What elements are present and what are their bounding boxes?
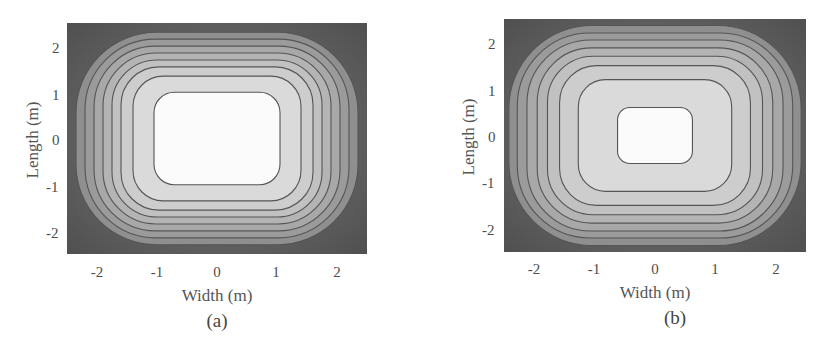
y-tick-label: 1	[488, 84, 496, 99]
x-tick-label: 0	[213, 265, 221, 280]
contour-line	[154, 92, 280, 184]
y-tick-label: -2	[46, 226, 59, 241]
y-tick-label: -1	[46, 180, 59, 195]
x-tick-label: 2	[772, 262, 780, 277]
y-tick-label: 0	[488, 130, 496, 145]
contour-plot-a	[67, 23, 367, 254]
x-tick-label: -1	[588, 262, 601, 277]
x-tick-label: 1	[711, 262, 719, 277]
y-tick-label: -1	[482, 176, 495, 191]
x-tick-label: 0	[651, 262, 659, 277]
contour-plot-b	[504, 19, 806, 252]
y-axis-label: Length (m)	[23, 102, 43, 179]
y-tick-label: 1	[52, 88, 60, 103]
x-tick-label: -1	[151, 265, 164, 280]
x-tick-label: -2	[528, 262, 541, 277]
panel-caption: (b)	[664, 307, 686, 329]
x-axis-label: Width (m)	[620, 283, 691, 303]
contour-line	[618, 108, 693, 164]
x-tick-label: 2	[333, 265, 341, 280]
y-tick-label: 2	[488, 37, 496, 52]
x-tick-label: -2	[91, 265, 104, 280]
panel-a: 2 1 0 -1 -2 -2 -1 0 1 2 Length (m) Width…	[0, 0, 413, 359]
y-tick-label: 0	[52, 133, 60, 148]
x-tick-label: 1	[272, 265, 280, 280]
y-tick-label: 2	[52, 41, 60, 56]
x-axis-label: Width (m)	[182, 286, 253, 306]
panel-caption: (a)	[206, 310, 227, 332]
panel-b: 2 1 0 -1 -2 -2 -1 0 1 2 Length (m) Width…	[413, 0, 826, 359]
y-tick-label: -2	[482, 223, 495, 238]
y-axis-label: Length (m)	[459, 99, 479, 176]
